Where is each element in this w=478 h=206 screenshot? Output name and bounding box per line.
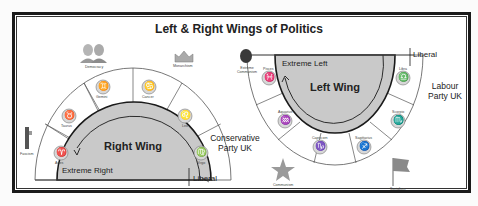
aries-icon: ♈ — [56, 147, 67, 157]
aries-label: Aries — [55, 161, 63, 165]
party-line-2: Party UK — [425, 91, 465, 101]
pisces-label: Pisces — [263, 67, 274, 71]
cancer-label: Cancer — [142, 95, 154, 99]
sagittarius-label: Sagittarius — [355, 136, 372, 140]
page-title: Left & Right Wings of Politics — [0, 22, 478, 36]
gemini-label: Gemini — [96, 95, 107, 99]
scorpio-label: Scorpio — [392, 110, 404, 114]
party-line-2: Party UK — [205, 143, 265, 153]
extreme-left-label: Extreme Left — [282, 59, 327, 68]
capricorn-label: Capricorn — [312, 136, 328, 140]
pisces-icon: ♓ — [264, 72, 275, 82]
taurus-icon: ♉ — [64, 110, 75, 120]
extreme-right-label: Extreme Right — [62, 166, 113, 175]
left-wing-label: Left Wing — [310, 81, 360, 93]
virgo-icon: ♍ — [196, 147, 207, 157]
extreme-communism-label: Extreme Communism — [236, 66, 258, 74]
party-line-1: Labour — [425, 81, 465, 91]
democracy-label: Democracy — [85, 65, 103, 69]
monarchism-label: Monarchism — [173, 64, 193, 68]
libra-label: Libra — [399, 67, 407, 71]
right-wing-label: Right Wing — [104, 140, 162, 152]
liberal-label-left: Liberal — [413, 50, 437, 59]
scorpio-icon: ♏ — [393, 115, 404, 125]
gemini-icon: ♊ — [98, 81, 109, 91]
liberal-label-right: Liberal — [193, 174, 217, 183]
communism-label: Communism — [273, 183, 293, 187]
aquarius-icon: ♒ — [280, 115, 291, 125]
sagittarius-icon: ♐ — [359, 141, 370, 151]
leo-label: Leo — [182, 124, 188, 128]
fascism-label: Fascism — [20, 152, 33, 156]
cancer-icon: ♋ — [144, 81, 155, 91]
leo-icon: ♌ — [180, 110, 191, 120]
virgo-label: Virgo — [197, 161, 205, 165]
labour-party-label: Labour Party UK — [425, 81, 465, 101]
capricorn-icon: ♑ — [315, 141, 326, 151]
aquarius-label: Aquarius — [278, 110, 292, 114]
conservative-party-label: Conservative Party UK — [205, 133, 265, 153]
socialism-label: Socialism — [390, 187, 405, 191]
party-line-1: Conservative — [205, 133, 265, 143]
libra-icon: ♎ — [398, 72, 409, 82]
taurus-label: Taurus — [61, 124, 72, 128]
